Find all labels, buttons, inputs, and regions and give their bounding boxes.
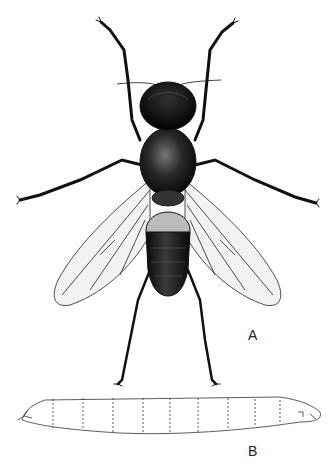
panel-label-b: B	[248, 443, 257, 459]
panel-label-a: A	[248, 327, 257, 343]
adult-fly	[17, 17, 319, 386]
abdomen	[146, 212, 190, 296]
thorax	[140, 128, 196, 196]
larva	[18, 397, 320, 434]
fly-illustration	[0, 0, 335, 472]
head	[140, 82, 196, 130]
